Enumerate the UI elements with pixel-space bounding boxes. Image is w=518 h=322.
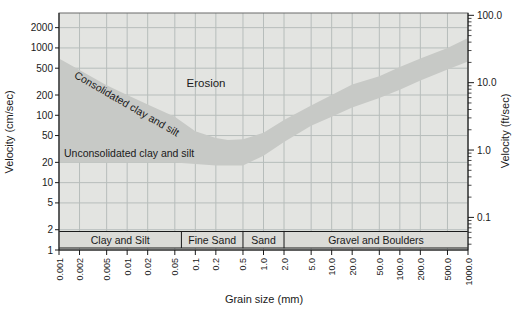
y-tick-label-right: 1.0 (477, 145, 491, 156)
x-tick-label: 0.005 (102, 258, 112, 281)
chart-canvas: Clay and SiltFine SandSandGravel and Bou… (0, 0, 518, 322)
y-tick-label-right: 0.1 (477, 212, 491, 223)
x-axis-title: Grain size (mm) (225, 293, 303, 305)
y-tick-label-left: 1000 (31, 42, 54, 53)
y-tick-label-left: 500 (36, 63, 53, 74)
x-tick-label: 0.05 (170, 258, 180, 276)
y-tick-label-left: 100 (36, 110, 53, 121)
grain-size-class-strip: Clay and SiltFine SandSandGravel and Bou… (59, 232, 468, 249)
x-tick-label: 0.5 (238, 258, 248, 271)
x-tick-label: 0.2 (211, 258, 221, 271)
x-tick-label: 2.0 (280, 258, 290, 271)
y-axis-title-right: Velocity (ft/sec) (499, 94, 511, 169)
x-tick-label: 0.01 (123, 258, 133, 276)
x-tick-label: 100.0 (395, 258, 405, 281)
x-tick-label: 10.0 (327, 258, 337, 276)
zone-label-erosion: Erosion (187, 77, 226, 89)
y-tick-label-left: 200 (36, 90, 53, 101)
x-tick-label: 200.0 (416, 258, 426, 281)
x-tick-label: 50.0 (375, 258, 385, 276)
grain-class-label: Gravel and Boulders (328, 234, 424, 246)
x-tick-label: 20.0 (348, 258, 358, 276)
x-tick-label: 0.02 (143, 258, 153, 276)
y-tick-label-left: 5 (47, 197, 53, 208)
y-tick-label-left: 2000 (31, 22, 54, 33)
x-tick-label: 0.001 (55, 258, 65, 281)
x-tick-label: 1.0 (259, 258, 269, 271)
grain-class-label: Clay and Silt (91, 234, 150, 246)
hjulstrom-diagram: Clay and SiltFine SandSandGravel and Bou… (0, 0, 518, 322)
y-axis-title-left: Velocity (cm/sec) (3, 90, 15, 173)
y-tick-label-left: 10 (42, 177, 54, 188)
y-tick-label-right: 10.0 (477, 77, 497, 88)
y-tick-label-left: 20 (42, 157, 54, 168)
y-tick-label-right: 100.0 (477, 10, 502, 21)
grain-class-label: Sand (251, 234, 276, 246)
x-tick-label: 500.0 (443, 258, 453, 281)
grain-class-label: Fine Sand (188, 234, 236, 246)
y-tick-label-left: 1 (47, 245, 53, 256)
x-tick-label: 0.002 (75, 258, 85, 281)
x-tick-label: 5.0 (307, 258, 317, 271)
zone-label-unconsolidated-clay-silt: Unconsolidated clay and silt (64, 147, 194, 159)
x-tick-label: 0.1 (191, 258, 201, 271)
y-tick-label-left: 50 (42, 130, 54, 141)
x-tick-label: 1000.0 (464, 258, 474, 286)
y-tick-label-left: 2 (47, 224, 53, 235)
